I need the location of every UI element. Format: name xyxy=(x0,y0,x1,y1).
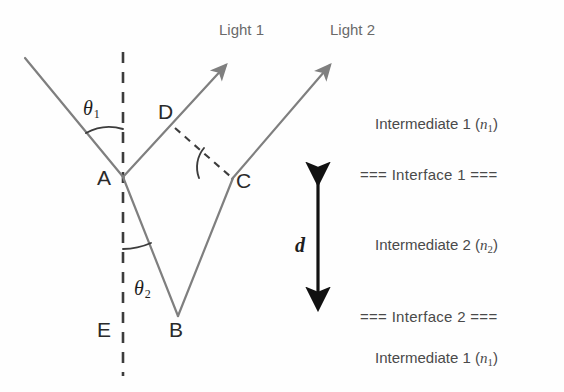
interface-1-label: === Interface 1 === xyxy=(360,166,497,183)
theta2-label: θ2 xyxy=(134,277,151,302)
theta2-arc xyxy=(123,243,151,249)
wavefront-dashed-dc xyxy=(175,128,231,177)
reflected-ray-light1 xyxy=(123,65,226,177)
thickness-label: d xyxy=(295,234,305,257)
theta1-subscript: 1 xyxy=(93,107,100,121)
medium-top-name: Intermediate 1 xyxy=(375,115,471,132)
medium-top-index: n1 xyxy=(480,116,493,132)
diagram-canvas xyxy=(0,0,564,392)
medium-bottom-index: n1 xyxy=(480,350,493,366)
light1-label: Light 1 xyxy=(219,21,264,38)
theta1-arc xyxy=(86,127,123,133)
point-d-label: D xyxy=(158,100,173,124)
medium-top-index-symbol: n xyxy=(480,116,488,132)
medium-bottom-label: Intermediate 1 (n1) xyxy=(375,349,498,368)
medium-middle-name: Intermediate 2 xyxy=(375,236,471,253)
light2-label: Light 2 xyxy=(330,21,375,38)
medium-middle-index: n2 xyxy=(480,237,493,253)
point-b-label: B xyxy=(169,318,183,342)
medium-bottom-name: Intermediate 1 xyxy=(375,349,471,366)
theta2-symbol: θ xyxy=(134,277,144,299)
optics-ray-diagram: Light 1 Light 2 A B C D E θ1 θ2 d Interm… xyxy=(0,0,564,392)
medium-top-paren-open: ( xyxy=(471,115,480,132)
medium-bottom-paren-open: ( xyxy=(471,349,480,366)
medium-bottom-paren-close: ) xyxy=(493,349,498,366)
medium-middle-label: Intermediate 2 (n2) xyxy=(375,236,498,255)
medium-bottom-index-symbol: n xyxy=(480,350,488,366)
incident-ray xyxy=(25,58,124,178)
emergent-ray-light2 xyxy=(232,65,330,179)
point-e-label: E xyxy=(97,318,111,342)
point-a-label: A xyxy=(97,166,111,190)
medium-middle-paren-open: ( xyxy=(471,236,480,253)
wavefront-angle-arc xyxy=(197,148,204,178)
medium-middle-index-symbol: n xyxy=(480,237,488,253)
theta1-symbol: θ xyxy=(83,97,93,119)
interface-2-label: === Interface 2 === xyxy=(360,308,497,325)
medium-middle-paren-close: ) xyxy=(493,236,498,253)
medium-top-paren-close: ) xyxy=(493,115,498,132)
medium-top-label: Intermediate 1 (n1) xyxy=(375,115,498,134)
point-c-label: C xyxy=(236,169,251,193)
theta2-subscript: 2 xyxy=(144,287,151,301)
theta1-label: θ1 xyxy=(83,97,100,122)
reflected-ray-b-to-c xyxy=(178,178,233,316)
